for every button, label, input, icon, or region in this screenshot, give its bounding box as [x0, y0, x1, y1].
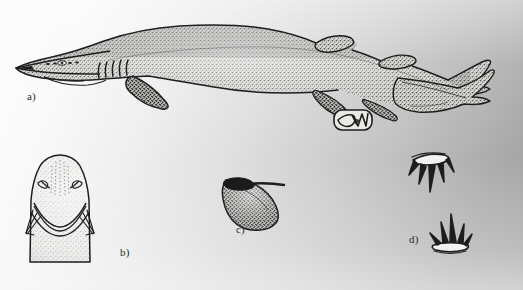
- shark-body-shading: [0, 0, 523, 150]
- panel-c-clasper-detail: [215, 170, 295, 240]
- panel-label-b: b): [120, 247, 130, 258]
- panel-a-shark-lateral: [0, 0, 523, 150]
- shark-eye: [58, 61, 66, 65]
- shark-pectoral-fin: [126, 76, 168, 109]
- figure-illustration: [0, 0, 523, 290]
- clasper-basal-rod: [246, 183, 284, 185]
- inset-tooth-detail: [334, 110, 372, 130]
- panel-b-head-ventral: [0, 140, 160, 290]
- panel-label-a: a): [27, 91, 36, 102]
- denticle-upper: [409, 153, 454, 192]
- panel-label-c: c): [236, 224, 245, 235]
- panel-label-d: d): [409, 234, 419, 245]
- figure-plate: a) b) c) d): [0, 0, 523, 290]
- denticle-lower: [430, 214, 472, 253]
